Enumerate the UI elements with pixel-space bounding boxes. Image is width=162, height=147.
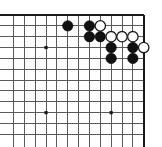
star-point (44, 111, 47, 114)
black-stone (128, 42, 138, 52)
go-board-canvas (0, 0, 162, 147)
white-stone (128, 32, 138, 42)
black-stone (84, 32, 94, 42)
black-stone (128, 53, 138, 63)
go-board-diagram (0, 0, 162, 147)
white-stone (106, 32, 116, 42)
black-stone (106, 53, 116, 63)
black-stone (63, 21, 73, 31)
black-stone (84, 21, 94, 31)
white-stone (139, 42, 149, 52)
star-point (44, 46, 47, 49)
black-stone (95, 32, 105, 42)
star-point (110, 111, 113, 114)
white-stone (95, 21, 105, 31)
stones-layer (63, 21, 149, 64)
black-stone (106, 42, 116, 52)
white-stone (117, 32, 127, 42)
